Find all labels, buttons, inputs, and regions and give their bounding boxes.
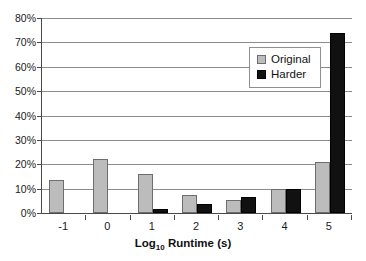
legend-swatch-original-icon: [257, 55, 266, 64]
x-axis-tick-mark: [174, 215, 175, 220]
bar-harder: [197, 204, 212, 213]
bar-original: [226, 200, 241, 213]
y-axis-tick-label: 10%: [0, 183, 36, 194]
gridline: [42, 164, 352, 165]
y-axis-tick-label: 60%: [0, 62, 36, 73]
x-axis-tick-label: 2: [193, 221, 199, 232]
chart-legend: Original Harder: [249, 47, 321, 88]
gridline: [42, 189, 352, 190]
y-axis-tick-label: 0%: [0, 208, 36, 219]
x-axis-tick-mark: [307, 215, 308, 220]
bar-original: [49, 180, 64, 213]
x-axis-tick-mark: [351, 215, 352, 220]
bar-harder: [241, 197, 256, 213]
bar-original: [271, 189, 286, 213]
x-axis-tick-mark: [130, 215, 131, 220]
x-axis-tick-label: 0: [104, 221, 110, 232]
x-axis-title-subscript: 10: [156, 243, 165, 252]
legend-label-harder: Harder: [271, 69, 306, 81]
x-axis-tick-mark: [262, 215, 263, 220]
bar-original: [93, 159, 108, 213]
y-axis-tick-label: 70%: [0, 37, 36, 48]
bar-original: [182, 195, 197, 213]
x-axis-title-rest: Runtime (s): [165, 237, 231, 249]
gridline: [42, 116, 352, 117]
y-axis-tick-label: 40%: [0, 110, 36, 121]
legend-swatch-harder-icon: [257, 70, 266, 79]
x-axis-title: Log10 Runtime (s): [0, 238, 366, 252]
gridline: [42, 91, 352, 92]
legend-item-harder: Harder: [257, 67, 311, 82]
x-axis-tick-label: 3: [237, 221, 243, 232]
gridline: [42, 42, 352, 43]
gridline: [42, 18, 352, 19]
legend-item-original: Original: [257, 52, 311, 67]
x-axis-tick-label: -1: [58, 221, 68, 232]
x-axis-tick-label: 4: [282, 221, 288, 232]
bar-harder: [330, 33, 345, 213]
bar-original: [315, 162, 330, 213]
y-axis-tick-label: 20%: [0, 159, 36, 170]
bar-harder: [286, 189, 301, 213]
x-axis-tick-label: 5: [326, 221, 332, 232]
x-axis-tick-mark: [218, 215, 219, 220]
x-axis-title-base: Log: [135, 237, 156, 249]
y-axis: 0%10%20%30%40%50%60%70%80%: [0, 0, 41, 261]
x-axis-tick-label: 1: [149, 221, 155, 232]
gridline: [42, 140, 352, 141]
bar-chart: 0%10%20%30%40%50%60%70%80% -1012345 Log1…: [0, 0, 366, 261]
bar-original: [138, 174, 153, 213]
y-axis-tick-label: 80%: [0, 13, 36, 24]
y-axis-tick-label: 30%: [0, 135, 36, 146]
x-axis-tick-mark: [85, 215, 86, 220]
y-axis-tick-label: 50%: [0, 86, 36, 97]
bar-harder: [153, 209, 168, 213]
legend-label-original: Original: [271, 54, 311, 66]
